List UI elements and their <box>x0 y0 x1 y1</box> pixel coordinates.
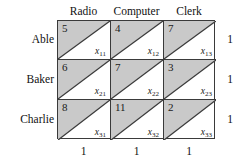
supply-value-charlie: 1 <box>222 112 238 126</box>
table-cell-able-computer[interactable]: 4 x12 <box>111 21 164 60</box>
cell-variable-subscript: 11 <box>99 50 106 58</box>
supply-value-baker: 1 <box>222 72 238 86</box>
table-cell-charlie-radio[interactable]: 8 x31 <box>58 100 111 140</box>
table-cell-able-clerk[interactable]: 7 x13 <box>164 21 216 60</box>
transportation-tableau: Radio Computer Clerk Able Baker Charlie … <box>0 0 247 163</box>
cell-variable-subscript: 23 <box>205 90 212 98</box>
supply-value-able: 1 <box>222 32 238 46</box>
cell-variable-subscript: 33 <box>205 131 212 139</box>
column-header-radio: Radio <box>57 4 110 18</box>
table-cell-charlie-computer[interactable]: 11 x32 <box>111 100 164 140</box>
cell-variable: x33 <box>201 127 212 139</box>
demand-value-computer: 1 <box>110 144 163 158</box>
cell-cost: 4 <box>115 22 121 34</box>
cell-variable-subscript: 13 <box>205 50 212 58</box>
cell-variable: x22 <box>148 86 159 98</box>
table-cell-able-radio[interactable]: 5 x11 <box>58 21 111 60</box>
cell-variable-subscript: 12 <box>152 50 159 58</box>
cost-grid: 5 x11 4 x12 7 x13 6 x21 <box>57 20 215 139</box>
cell-cost: 5 <box>62 22 68 34</box>
row-label-baker: Baker <box>0 72 54 86</box>
cell-cost: 3 <box>168 61 174 73</box>
cell-cost: 8 <box>62 101 68 113</box>
row-label-able: Able <box>0 32 54 46</box>
cell-cost: 7 <box>115 61 121 73</box>
table-cell-baker-radio[interactable]: 6 x21 <box>58 60 111 100</box>
cell-variable: x12 <box>148 46 159 58</box>
cell-variable: x21 <box>95 86 106 98</box>
demand-value-radio: 1 <box>57 144 110 158</box>
demand-value-clerk: 1 <box>163 144 215 158</box>
cell-variable: x23 <box>201 86 212 98</box>
cell-variable-subscript: 32 <box>152 131 159 139</box>
table-cell-charlie-clerk[interactable]: 2 x33 <box>164 100 216 140</box>
table-cell-baker-clerk[interactable]: 3 x23 <box>164 60 216 100</box>
cell-variable: x11 <box>95 46 106 58</box>
cell-variable-subscript: 21 <box>99 90 106 98</box>
cell-cost: 11 <box>115 101 126 113</box>
cell-variable: x13 <box>201 46 212 58</box>
cell-cost: 7 <box>168 22 174 34</box>
cell-variable: x31 <box>95 127 106 139</box>
cell-cost: 6 <box>62 61 68 73</box>
column-header-clerk: Clerk <box>163 4 215 18</box>
cell-variable-subscript: 22 <box>152 90 159 98</box>
cell-variable: x32 <box>148 127 159 139</box>
column-header-computer: Computer <box>110 4 163 18</box>
cell-cost: 2 <box>168 101 174 113</box>
row-label-charlie: Charlie <box>0 112 54 126</box>
table-cell-baker-computer[interactable]: 7 x22 <box>111 60 164 100</box>
cell-variable-subscript: 31 <box>99 131 106 139</box>
